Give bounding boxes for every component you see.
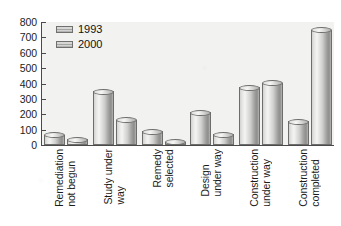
x-axis-label-line: Construction bbox=[297, 149, 308, 207]
bar bbox=[93, 91, 114, 145]
bar-group bbox=[139, 22, 188, 145]
y-axis-tick-mark bbox=[41, 53, 46, 54]
x-axis-label-line: Design bbox=[200, 149, 211, 197]
bar bbox=[165, 142, 186, 145]
x-axis-label-line: not begun bbox=[66, 149, 77, 207]
y-axis-tick-mark bbox=[41, 37, 46, 38]
bar bbox=[67, 139, 88, 145]
x-axis-label-line: selected bbox=[163, 149, 174, 188]
legend-swatch-icon bbox=[56, 26, 73, 33]
bar-group bbox=[285, 22, 334, 145]
y-axis-tick-labels: 8007006005004003002001000 bbox=[0, 22, 37, 145]
x-axis-label-line: Study under bbox=[103, 149, 114, 205]
bar-group bbox=[188, 22, 237, 145]
x-axis-category-labels: Remediationnot begunStudy underwayRemedy… bbox=[41, 149, 333, 226]
bar bbox=[311, 30, 332, 145]
legend-swatch-icon bbox=[56, 41, 73, 48]
bar-chart-figure: 8007006005004003002001000 19932000 Remed… bbox=[0, 0, 341, 226]
bar bbox=[116, 120, 137, 145]
bar bbox=[142, 131, 163, 145]
x-axis-label-line: under way bbox=[212, 149, 223, 197]
bar-group bbox=[237, 22, 286, 145]
y-axis-tick-label: 800 bbox=[0, 16, 37, 28]
x-axis-label-line: Remediation bbox=[54, 149, 65, 207]
bar bbox=[213, 134, 234, 145]
x-axis-category-label: Constructioncompleted bbox=[272, 149, 341, 223]
bar bbox=[262, 83, 283, 145]
y-axis-tick-mark bbox=[41, 22, 46, 23]
x-axis-label-line: under way bbox=[261, 149, 272, 207]
x-axis-label-line: way bbox=[115, 149, 126, 205]
y-axis-tick-label: 400 bbox=[0, 78, 37, 90]
bar bbox=[239, 87, 260, 145]
x-axis-label-line: Construction bbox=[249, 149, 260, 207]
y-axis-tick-label: 300 bbox=[0, 93, 37, 105]
y-axis-tick-label: 100 bbox=[0, 124, 37, 136]
legend-entry: 2000 bbox=[56, 39, 102, 50]
y-axis-tick-label: 700 bbox=[0, 31, 37, 43]
legend-entry: 1993 bbox=[56, 24, 102, 35]
legend-label: 2000 bbox=[78, 39, 102, 50]
legend-label: 1993 bbox=[78, 24, 102, 35]
x-axis-label-line: Remedy bbox=[151, 149, 162, 188]
bar bbox=[190, 112, 211, 145]
y-axis-tick-label: 200 bbox=[0, 108, 37, 120]
y-axis-tick-label: 500 bbox=[0, 62, 37, 74]
bar bbox=[44, 135, 65, 145]
y-axis-tick-label: 600 bbox=[0, 47, 37, 59]
y-axis-tick-mark bbox=[41, 68, 46, 69]
bar bbox=[288, 121, 309, 145]
x-axis-label-line: completed bbox=[309, 149, 320, 207]
y-axis-tick-mark bbox=[41, 99, 46, 100]
y-axis-tick-mark bbox=[41, 114, 46, 115]
y-axis-tick-mark bbox=[41, 130, 46, 131]
chart-legend: 19932000 bbox=[56, 24, 102, 50]
y-axis-tick-mark bbox=[41, 84, 46, 85]
